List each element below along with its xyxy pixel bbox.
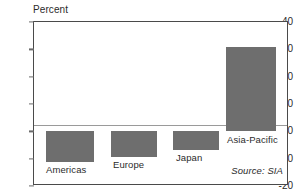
chart-figure: Percent 403020100-10-20 AmericasEuropeJa… [0,0,298,195]
category-label-japan: Japan [176,152,202,163]
category-label-asia-pacific: Asia-Pacific [227,134,278,145]
y-axis-title: Percent [33,4,68,15]
y-tick-mark [29,131,34,132]
category-label-europe: Europe [113,159,144,170]
y-tick-mark [29,103,34,104]
source-note: Source: SIA [231,165,283,176]
category-label-americas: Americas [46,164,86,175]
y-tick-mark [29,21,34,22]
plot-inner: AmericasEuropeJapanAsia-Pacific Source: … [34,22,287,184]
y-tick-mark [29,76,34,77]
y-tick-mark [29,185,34,186]
bar-americas [46,131,94,162]
y-tick-mark [29,158,34,159]
plot-area: AmericasEuropeJapanAsia-Pacific Source: … [33,21,288,185]
bar-europe [111,131,157,157]
bar-asia-pacific [226,47,276,132]
bar-japan [173,131,219,150]
y-tick-mark [29,49,34,50]
